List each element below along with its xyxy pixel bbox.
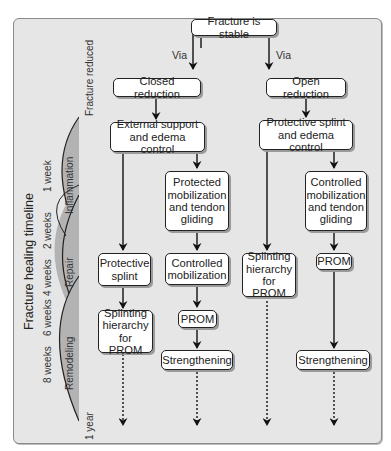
node-strengthening-open: Strengthening — [296, 350, 370, 370]
via-label-right: Via — [276, 49, 291, 61]
timeline-end-label: 1 year — [84, 412, 95, 440]
node-closed-reduction: Closed reduction — [113, 78, 201, 97]
node-controlled-mobilization-closed: Controlled mobilization — [165, 253, 229, 285]
node-prom-closed: PROM — [178, 310, 217, 328]
node-splinting-hierarchy-closed: Splinting hierarchy for PROM — [98, 310, 153, 353]
node-external-support: External support and edema control — [110, 122, 205, 152]
node-splinting-hierarchy-open: Splinting hierarchy for PROM — [242, 253, 296, 297]
tick-label-4-weeks: 4 weeks — [42, 259, 53, 296]
node-prom-open: PROM — [316, 253, 352, 270]
node-protected-mobilization: Protected mobilization and tendon glidin… — [165, 171, 229, 231]
timeline-title: Fracture healing timeline — [22, 193, 36, 330]
node-protective-splint-closed: Protective splint — [98, 253, 151, 286]
phase-label-remodeling: Remodeling — [64, 337, 75, 390]
via-label-left: Via — [172, 49, 187, 61]
tick-label-1-week: 1 week — [42, 160, 53, 192]
tick-label-8-weeks: 8 weeks — [42, 346, 53, 383]
tick-label-2-weeks: 2 weeks — [42, 212, 53, 249]
phase-label-repair: Repair — [64, 258, 75, 287]
node-strengthening-closed: Strengthening — [161, 350, 233, 370]
node-fracture-is-stable: Fracture is stable — [191, 19, 277, 36]
tick-label-6-weeks: 6 weeks — [42, 299, 53, 336]
node-controlled-mobilization-open: Controlled mobilization and tendon glidi… — [305, 171, 367, 231]
node-open-reduction: Open reduction — [266, 78, 346, 97]
timeline-start-label: Fracture reduced — [84, 40, 95, 116]
phase-label-inflammation: Inflammation — [64, 157, 75, 214]
node-protective-splint-edema: Protective splint and edema control — [259, 120, 353, 150]
